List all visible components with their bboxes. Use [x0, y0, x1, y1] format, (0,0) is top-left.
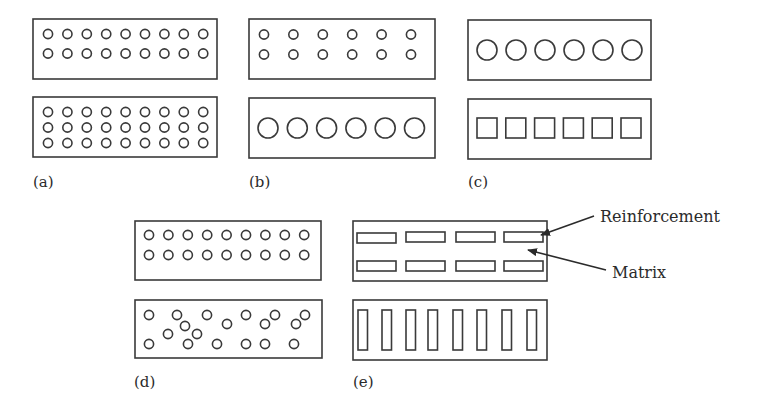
fiber-circle [258, 118, 278, 138]
panel-c-bottom-fibers [477, 118, 641, 138]
fiber-circle [300, 230, 309, 239]
fiber-horizontal-rect [406, 261, 445, 271]
fiber-circle [121, 107, 130, 116]
fiber-circle [260, 319, 269, 328]
panel-c-label: (c) [468, 173, 488, 191]
matrix-arrow-icon [528, 250, 606, 270]
panel-b-label: (b) [249, 173, 270, 191]
fiber-circle [140, 138, 149, 147]
fiber-circle [63, 29, 72, 38]
fiber-circle [287, 118, 307, 138]
fiber-circle [63, 49, 72, 58]
fiber-circle [121, 138, 130, 147]
fiber-circle [102, 138, 111, 147]
fiber-circle [63, 138, 72, 147]
fiber-circle [102, 29, 111, 38]
fiber-circle [192, 329, 201, 338]
panel-c-bottom-box [468, 99, 651, 159]
fiber-circle [63, 107, 72, 116]
fiber-circle [164, 250, 173, 259]
fiber-circle [317, 118, 337, 138]
fiber-circle [144, 250, 153, 259]
fiber-vertical-rect [406, 310, 416, 350]
fiber-circle [179, 49, 188, 58]
fiber-vertical-rect [428, 310, 438, 350]
fiber-square [535, 118, 555, 138]
fiber-circle [172, 310, 181, 319]
fiber-circle [300, 310, 309, 319]
panel-c: (c) [468, 20, 651, 191]
fiber-square [592, 118, 612, 138]
fiber-circle [43, 138, 52, 147]
fiber-circle [180, 321, 189, 330]
fiber-circle [203, 230, 212, 239]
fiber-circle [241, 339, 250, 348]
fiber-circle [622, 40, 642, 60]
fiber-circle [261, 250, 270, 259]
fiber-circle [121, 123, 130, 132]
fiber-circle [160, 123, 169, 132]
fiber-circle [43, 49, 52, 58]
composite-diagram: (a) (b) (c) (d) (e) Reinforcement Matrix [0, 0, 764, 411]
matrix-label: Matrix [612, 263, 666, 282]
fiber-circle [183, 250, 192, 259]
fiber-circle [289, 30, 298, 39]
panel-c-top-box [468, 20, 651, 80]
panel-b-top-fibers [259, 30, 415, 59]
fiber-square [621, 118, 641, 138]
fiber-horizontal-rect [456, 232, 495, 242]
panel-a-label: (a) [33, 173, 54, 191]
fiber-circle [160, 29, 169, 38]
panel-d-label: (d) [134, 373, 155, 391]
fiber-circle [102, 123, 111, 132]
fiber-square [563, 118, 583, 138]
fiber-circle [144, 230, 153, 239]
panel-d-bottom-fibers [144, 310, 309, 348]
fiber-circle [199, 138, 208, 147]
fiber-circle [535, 40, 555, 60]
fiber-circle [406, 30, 415, 39]
fiber-horizontal-rect [504, 261, 543, 271]
fiber-circle [348, 30, 357, 39]
fiber-circle [43, 29, 52, 38]
fiber-vertical-rect [358, 310, 368, 350]
fiber-circle [348, 50, 357, 59]
fiber-circle [346, 118, 366, 138]
fiber-circle [199, 123, 208, 132]
fiber-circle [82, 138, 91, 147]
fiber-circle [199, 29, 208, 38]
panel-d: (d) [134, 221, 322, 391]
fiber-circle [183, 230, 192, 239]
panel-d-top-fibers [144, 230, 308, 259]
fiber-circle [82, 123, 91, 132]
fiber-circle [289, 339, 298, 348]
panel-c-top-fibers [477, 40, 642, 60]
panel-e-top-fibers [357, 232, 543, 271]
fiber-circle [163, 329, 172, 338]
fiber-circle [300, 250, 309, 259]
fiber-circle [377, 50, 386, 59]
fiber-circle [43, 123, 52, 132]
fiber-circle [377, 30, 386, 39]
panel-a: (a) [33, 19, 217, 191]
fiber-circle [280, 250, 289, 259]
fiber-circle [140, 29, 149, 38]
panel-e-top-box [353, 221, 547, 281]
fiber-circle [179, 107, 188, 116]
fiber-circle [179, 29, 188, 38]
fiber-circle [406, 50, 415, 59]
fiber-circle [375, 118, 395, 138]
fiber-circle [140, 49, 149, 58]
fiber-circle [164, 230, 173, 239]
fiber-horizontal-rect [406, 232, 445, 242]
fiber-circle [160, 49, 169, 58]
fiber-square [477, 118, 497, 138]
fiber-circle [63, 123, 72, 132]
fiber-circle [160, 107, 169, 116]
fiber-circle [202, 310, 211, 319]
panel-b-bottom-box [249, 98, 435, 158]
panel-e-label: (e) [353, 373, 374, 391]
fiber-vertical-rect [382, 310, 392, 350]
fiber-circle [259, 50, 268, 59]
reinforcement-label: Reinforcement [600, 207, 721, 226]
